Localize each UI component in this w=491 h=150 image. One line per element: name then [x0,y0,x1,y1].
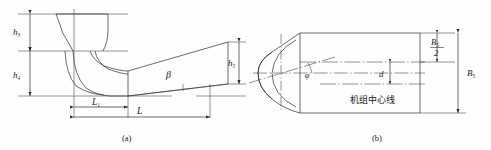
label-L: L [136,106,142,116]
subfigure-a-geometry [18,9,246,118]
label-L1: L1 [91,97,100,108]
label-B5: B5 [467,68,476,79]
nose-inner-arc [272,40,296,107]
label-d: d [379,69,384,79]
diffuser-top-wall [128,42,228,71]
extension-lines-a [18,14,246,96]
label-h4: h4 [13,70,21,81]
label-h5: h5 [228,58,236,69]
dimension-B5-full [420,33,466,113]
inlet-wall-left [56,14,73,51]
drawing-sheet: h3 h4 h5 L1 L β (a) φ d B5 2 B5 机组中心线 (b… [0,0,491,150]
label-phi: φ [305,71,310,80]
caption-a: (a) [122,133,132,143]
beta-reference-line [128,84,228,96]
nose-tip-arc [258,52,272,99]
inlet-wall-right [103,14,108,51]
label-h3: h3 [13,27,21,38]
label-beta: β [165,69,171,80]
technical-drawing-canvas: h3 h4 h5 L1 L β (a) φ d B5 2 B5 机组中心线 (b… [0,0,491,150]
label-B5-half-denominator: 2 [434,48,439,58]
label-B5-half-numerator: B5 [431,37,439,48]
elbow-mid-wall [65,51,104,95]
caption-b: (b) [372,133,382,143]
label-unit-centre-line: 机组中心线 [350,94,395,105]
